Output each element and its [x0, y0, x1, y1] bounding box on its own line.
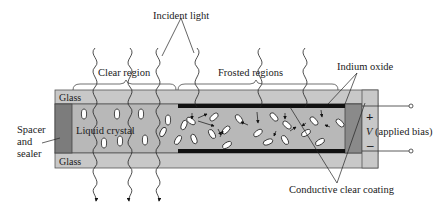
voltage-text: (applied bias) [372, 126, 432, 137]
left-spacer-sealer [55, 104, 72, 153]
minus-sign: – [367, 139, 374, 150]
glass-top-label: Glass [59, 92, 81, 103]
spacer-label-line1: Spacer [17, 124, 46, 135]
right-spacer-sealer [345, 104, 362, 153]
glass-bottom-layer [55, 153, 378, 168]
liquid-crystal-label: Liquid crystal [76, 125, 135, 136]
positive-terminal [409, 104, 413, 108]
region-braces [73, 80, 338, 90]
voltage-label: V (applied bias) [366, 126, 432, 137]
bottom-electrode [178, 149, 345, 153]
plus-sign: + [366, 111, 373, 122]
lc-cell-diagram [0, 0, 448, 213]
negative-terminal [409, 149, 413, 153]
incident-light-pointers [162, 18, 194, 56]
indium-oxide-label: Indium oxide [337, 61, 393, 72]
frosted-regions-label: Frosted regions [218, 67, 283, 78]
conductive-coating-label: Conductive clear coating [289, 184, 394, 195]
spacer-label-line2: and [17, 136, 32, 147]
spacer-label-line3: sealer [17, 148, 41, 159]
clear-region-label: Clear region [98, 67, 150, 78]
glass-bottom-label: Glass [59, 156, 81, 167]
incident-light-label: Incident light [153, 10, 209, 21]
